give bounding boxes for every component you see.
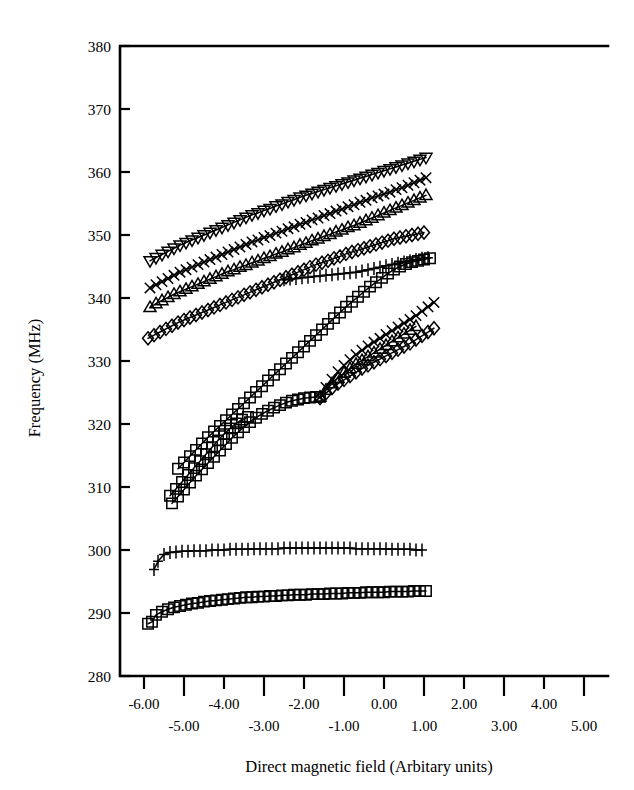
x-tick-label: -4.00 [208,696,239,712]
y-tick-label: 320 [88,416,112,433]
x-tick-label: -1.00 [328,718,359,734]
y-tick-label: 280 [88,668,112,685]
x-tick-label: -6.00 [128,696,159,712]
x-tick-label: 3.00 [491,718,517,734]
x-tick-label: 4.00 [531,696,557,712]
x-tick-label: -3.00 [248,718,279,734]
x-tick-label: 2.00 [451,696,477,712]
y-tick-label: 290 [88,605,112,622]
y-axis-title: Frequency (MHz) [25,319,44,438]
y-tick-label: 360 [88,164,112,181]
x-axis-title: Direct magnetic field (Arbitary units) [245,757,492,776]
y-tick-label: 330 [88,353,112,370]
frequency-vs-magnetic-field-chart: 280290300310320330340350360370380 -6.00-… [0,0,634,790]
y-tick-label: 380 [88,38,112,55]
x-tick-label: 1.00 [411,718,437,734]
x-tick-label: -5.00 [168,718,199,734]
y-tick-label: 350 [88,227,112,244]
y-tick-label: 340 [88,290,112,307]
y-tick-label: 300 [88,542,112,559]
x-tick-label: 5.00 [571,718,597,734]
y-tick-label: 370 [88,101,112,118]
y-tick-label: 310 [88,479,112,496]
x-tick-label: 0.00 [371,696,397,712]
x-tick-label: -2.00 [288,696,319,712]
